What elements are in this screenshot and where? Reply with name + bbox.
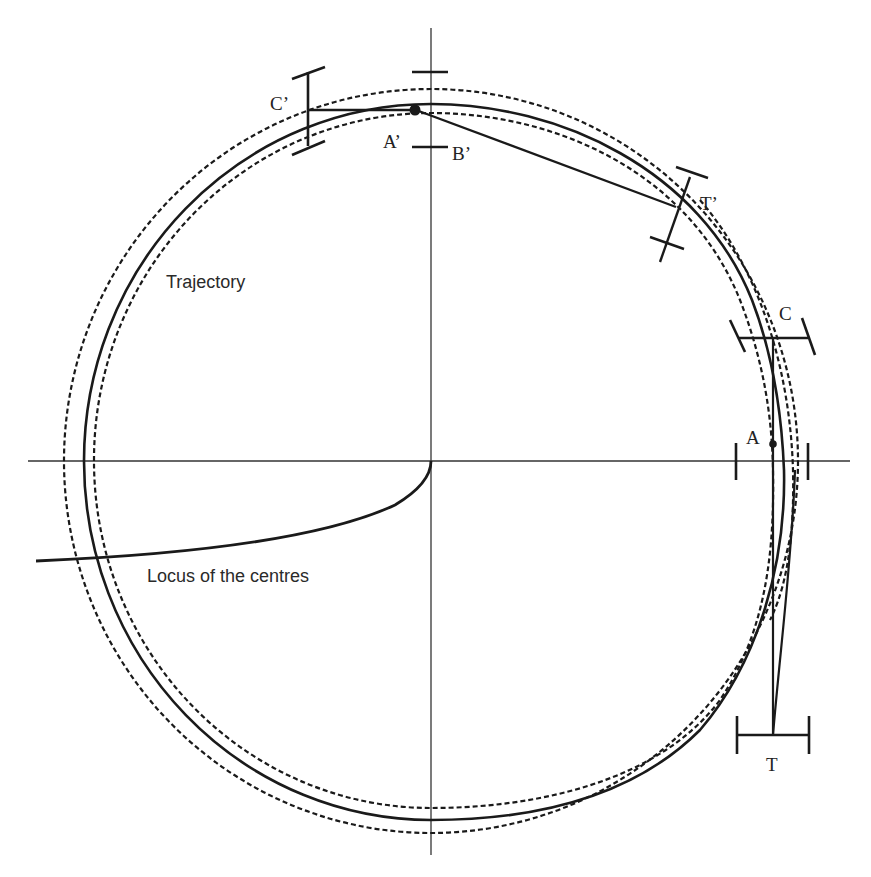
point-A	[769, 440, 777, 448]
label-T-prime: T’	[700, 193, 718, 214]
label-trajectory: Trajectory	[166, 272, 245, 292]
point-A-prime	[410, 105, 421, 116]
label-locus-of-centres: Locus of the centres	[147, 566, 309, 586]
label-C: C	[779, 303, 792, 324]
label-T: T	[766, 754, 778, 775]
label-A-prime: A’	[383, 131, 401, 152]
label-B-prime: B’	[452, 143, 471, 164]
label-A: A	[746, 427, 760, 448]
trajectory-diagram: C’ A’ B’ T’ C A T Trajectory Locus of th…	[0, 0, 871, 877]
label-C-prime: C’	[270, 93, 289, 114]
